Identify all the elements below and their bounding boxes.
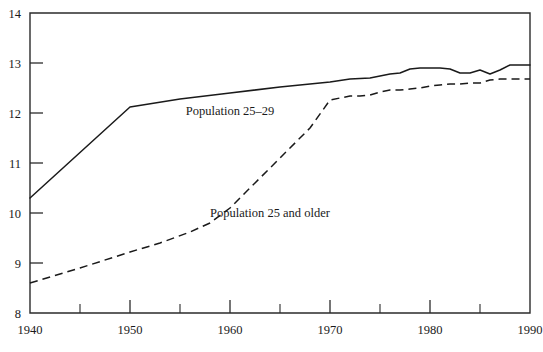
y-tick-label-9: 9 xyxy=(15,257,21,271)
series-annotation-1: Population 25–29 xyxy=(186,104,275,118)
x-tick-label-1940: 1940 xyxy=(18,323,43,337)
population-education-chart: 891011121314 194019501960197019801990 Po… xyxy=(0,0,543,352)
series-group xyxy=(30,65,530,283)
y-tick-label-14: 14 xyxy=(9,7,22,21)
y-tick-label-12: 12 xyxy=(9,107,22,121)
series-annotations: Population 25–29Population 25 and older xyxy=(186,104,331,221)
y-tick-label-10: 10 xyxy=(9,207,22,221)
x-tick-label-1960: 1960 xyxy=(218,323,243,337)
series-line-2 xyxy=(30,79,530,283)
x-tick-label-1990: 1990 xyxy=(518,323,543,337)
plot-frame xyxy=(30,13,530,313)
y-tick-label-8: 8 xyxy=(15,307,21,321)
x-tick-label-1980: 1980 xyxy=(418,323,443,337)
axis-frame-path xyxy=(30,13,530,313)
y-axis-ticks xyxy=(30,63,43,263)
x-tick-label-1970: 1970 xyxy=(318,323,343,337)
x-axis-ticks xyxy=(80,300,480,313)
x-axis-labels: 194019501960197019801990 xyxy=(18,323,543,337)
chart-canvas: 891011121314 194019501960197019801990 Po… xyxy=(0,0,543,352)
y-tick-label-13: 13 xyxy=(9,57,22,71)
series-annotation-2: Population 25 and older xyxy=(210,206,331,220)
y-tick-label-11: 11 xyxy=(9,157,21,171)
y-axis-labels: 891011121314 xyxy=(9,7,22,321)
series-line-1 xyxy=(30,65,530,198)
x-tick-label-1950: 1950 xyxy=(118,323,143,337)
